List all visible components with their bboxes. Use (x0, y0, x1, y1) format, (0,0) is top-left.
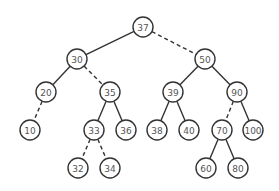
tree-node-100: 100 (243, 120, 263, 140)
edge-35-33 (98, 101, 106, 121)
node-label: 90 (231, 88, 243, 98)
edge-35-36 (114, 101, 122, 121)
edge-30-20 (53, 66, 70, 84)
edge-50-90 (212, 66, 230, 85)
node-label: 70 (216, 126, 228, 136)
node-label: 20 (40, 88, 52, 98)
node-label: 60 (200, 164, 212, 174)
node-label: 34 (104, 164, 116, 174)
tree-node-40: 40 (179, 120, 199, 140)
node-label: 36 (120, 126, 132, 136)
node-label: 40 (183, 126, 195, 136)
edge-33-34 (98, 139, 106, 159)
edge-39-38 (161, 101, 169, 121)
node-label: 32 (72, 164, 83, 174)
tree-node-80: 80 (228, 158, 248, 178)
node-label: 35 (104, 88, 115, 98)
tree-node-70: 70 (212, 120, 232, 140)
nodes-layer: 3730502035399010333638407010032346080 (20, 17, 263, 178)
tree-node-20: 20 (36, 82, 56, 102)
node-label: 37 (137, 23, 148, 33)
node-label: 38 (151, 126, 163, 136)
node-label: 50 (199, 55, 211, 65)
node-label: 30 (71, 55, 83, 65)
node-label: 10 (24, 126, 36, 136)
tree-node-34: 34 (100, 158, 120, 178)
edge-37-30 (86, 31, 134, 54)
tree-node-50: 50 (195, 49, 215, 69)
edge-70-80 (226, 139, 234, 159)
edge-37-50 (152, 32, 196, 55)
edge-33-32 (82, 139, 90, 159)
tree-node-30: 30 (67, 49, 87, 69)
edges-layer (34, 31, 249, 158)
node-label: 33 (88, 126, 99, 136)
tree-node-90: 90 (227, 82, 247, 102)
node-label: 100 (244, 126, 261, 136)
tree-node-38: 38 (147, 120, 167, 140)
tree-node-35: 35 (100, 82, 120, 102)
tree-node-10: 10 (20, 120, 40, 140)
node-label: 39 (167, 88, 179, 98)
node-label: 80 (232, 164, 244, 174)
tree-node-39: 39 (163, 82, 183, 102)
edge-20-10 (34, 101, 42, 121)
edge-70-60 (210, 139, 218, 159)
edge-39-40 (177, 101, 185, 121)
edge-90-100 (241, 101, 249, 121)
edge-90-70 (226, 101, 234, 120)
tree-node-32: 32 (68, 158, 88, 178)
binary-tree-diagram: 3730502035399010333638407010032346080 (0, 0, 279, 191)
tree-node-37: 37 (133, 17, 153, 37)
edge-30-35 (84, 66, 103, 85)
tree-node-60: 60 (196, 158, 216, 178)
tree-node-33: 33 (84, 120, 104, 140)
edge-50-39 (180, 66, 198, 85)
tree-node-36: 36 (116, 120, 136, 140)
